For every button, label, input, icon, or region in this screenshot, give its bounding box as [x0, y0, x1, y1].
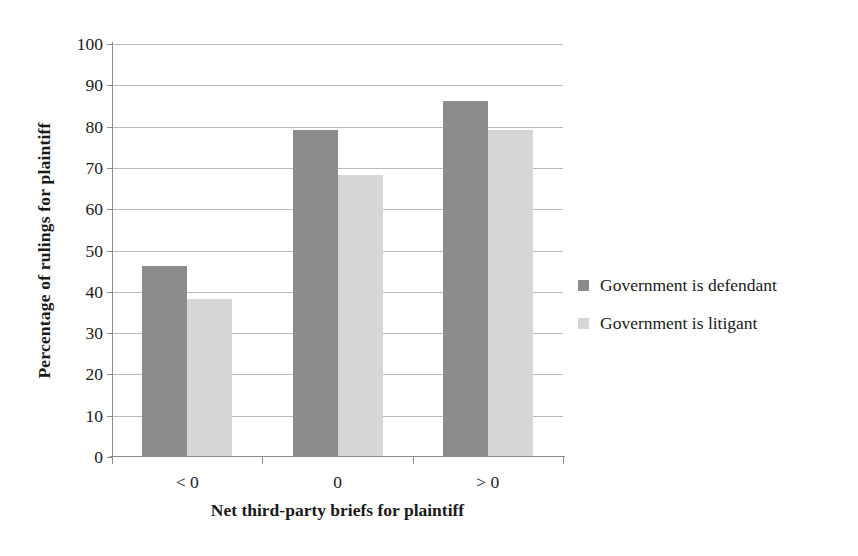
y-tick-label: 30 — [86, 323, 104, 344]
bar-chart-figure: Percentage of rulings for plaintiff 0102… — [0, 0, 858, 556]
y-tick-mark — [107, 292, 113, 293]
y-tick-label: 80 — [86, 116, 104, 137]
y-tick-mark — [107, 168, 113, 169]
y-tick-mark — [107, 251, 113, 252]
y-tick-label: 0 — [94, 447, 103, 468]
legend-label: Government is defendant — [600, 275, 777, 296]
y-tick-label: 10 — [86, 405, 104, 426]
y-tick-label: 70 — [86, 157, 104, 178]
y-tick-mark — [107, 127, 113, 128]
legend-swatch — [578, 280, 589, 291]
y-tick-label: 40 — [86, 281, 104, 302]
y-tick-mark — [107, 85, 113, 86]
y-tick-mark — [107, 333, 113, 334]
y-tick-mark — [107, 44, 113, 45]
bar — [293, 130, 338, 456]
y-tick-label: 100 — [77, 34, 103, 55]
bar — [142, 266, 187, 456]
y-tick-label: 90 — [86, 75, 104, 96]
page-bleed-text — [150, 542, 850, 555]
x-tick-mark — [563, 457, 564, 464]
x-axis-line — [110, 456, 565, 457]
x-tick-mark — [262, 457, 263, 464]
legend-item: Government is litigant — [578, 304, 777, 342]
legend-label: Government is litigant — [600, 313, 757, 334]
legend-item: Government is defendant — [578, 266, 777, 304]
x-tick-label: < 0 — [176, 472, 199, 493]
bar — [338, 175, 383, 456]
gridline — [112, 127, 563, 128]
plot-area: 0102030405060708090100 < 00> 0 — [112, 44, 563, 457]
y-tick-mark — [107, 374, 113, 375]
bar — [443, 101, 488, 456]
y-tick-mark — [107, 209, 113, 210]
gridline — [112, 85, 563, 86]
x-tick-label: 0 — [333, 472, 342, 493]
x-tick-label: > 0 — [476, 472, 499, 493]
chart-legend: Government is defendantGovernment is lit… — [578, 266, 777, 342]
x-tick-mark — [413, 457, 414, 464]
x-axis-title: Net third-party briefs for plaintiff — [112, 500, 563, 521]
x-tick-mark — [112, 457, 113, 464]
gridline — [112, 44, 563, 45]
legend-swatch — [578, 318, 589, 329]
y-tick-label: 20 — [86, 364, 104, 385]
y-tick-label: 60 — [86, 199, 104, 220]
bar — [187, 299, 232, 456]
y-tick-label: 50 — [86, 240, 104, 261]
y-axis-title: Percentage of rulings for plaintiff — [34, 81, 55, 421]
y-tick-mark — [107, 416, 113, 417]
bar — [488, 130, 533, 456]
